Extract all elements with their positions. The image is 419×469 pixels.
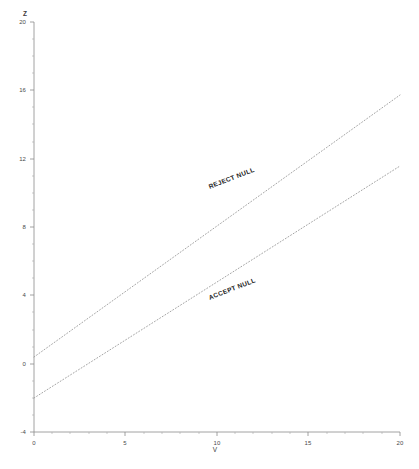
y-tick-label-4: 4 xyxy=(8,292,26,298)
chart-container: 20 16 12 8 4 0 -4 0 5 10 15 20 Z V REJEC… xyxy=(0,0,419,469)
plot-area xyxy=(0,0,419,469)
x-tick-label-15: 15 xyxy=(305,440,312,446)
y-axis-title: Z xyxy=(23,11,27,18)
y-tick-label-minus-4: -4 xyxy=(8,429,26,435)
y-tick-label-8: 8 xyxy=(8,224,26,230)
x-tick-label-20: 20 xyxy=(397,440,404,446)
x-axis-title: V xyxy=(213,447,217,454)
x-tick-label-5: 5 xyxy=(123,440,126,446)
y-tick-label-20: 20 xyxy=(8,19,26,25)
y-tick-label-0: 0 xyxy=(8,361,26,367)
series-line-lower-boundary xyxy=(34,166,400,398)
series-line-upper-boundary xyxy=(34,95,400,357)
y-axis-major-ticks xyxy=(30,22,34,432)
x-tick-label-0: 0 xyxy=(32,440,35,446)
y-tick-label-16: 16 xyxy=(8,87,26,93)
y-tick-label-12: 12 xyxy=(8,156,26,162)
